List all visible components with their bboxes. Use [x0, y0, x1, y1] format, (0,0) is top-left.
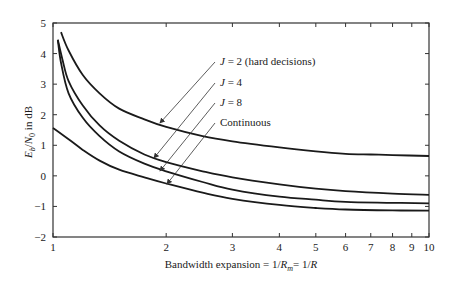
y-tick-label: −2 — [34, 231, 46, 243]
annotation-arrow — [160, 62, 215, 123]
annotation-label: Continuous — [220, 116, 271, 128]
chart: −2−1012345 12345678910 J = 2 (hard decis… — [0, 0, 452, 283]
y-axis-label: Eb/N0 in dB — [22, 106, 37, 159]
x-tick-label: 7 — [368, 241, 374, 253]
x-tick-label: 6 — [343, 241, 349, 253]
y-tick-label: −1 — [34, 200, 46, 212]
x-tick-label: 3 — [230, 241, 236, 253]
x-tick-label: 2 — [163, 241, 169, 253]
x-axis-label: Bandwidth expansion = 1/Rm= 1/R — [165, 258, 318, 273]
x-tick-label: 5 — [313, 241, 319, 253]
x-tick-label: 9 — [409, 241, 415, 253]
y-tick-label: 5 — [41, 17, 47, 29]
x-tick-label: 1 — [50, 241, 56, 253]
annotation-label: J = 4 — [220, 76, 243, 88]
x-tick-label: 4 — [277, 241, 283, 253]
curve-continuous — [53, 128, 429, 211]
annotation-label: J = 8 — [220, 96, 243, 108]
y-tick-label: 0 — [41, 170, 47, 182]
curve-j-2-hard-decisions — [61, 32, 429, 156]
y-tick-label: 1 — [41, 139, 47, 151]
y-tick-label: 3 — [41, 78, 47, 90]
annotation-arrow — [154, 83, 215, 158]
annotation-label: J = 2 (hard decisions) — [220, 55, 316, 68]
y-tick-label: 4 — [41, 48, 47, 60]
y-tick-label: 2 — [41, 109, 47, 121]
x-tick-label: 8 — [390, 241, 396, 253]
x-tick-label: 10 — [424, 241, 436, 253]
